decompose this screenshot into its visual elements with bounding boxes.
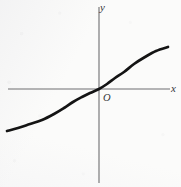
origin-label: O <box>103 92 111 103</box>
y-axis-label: y <box>99 1 105 13</box>
coordinate-plane-plot: y x O <box>0 0 181 187</box>
figure-canvas: y x O <box>0 0 181 187</box>
x-axis-label: x <box>170 82 176 94</box>
